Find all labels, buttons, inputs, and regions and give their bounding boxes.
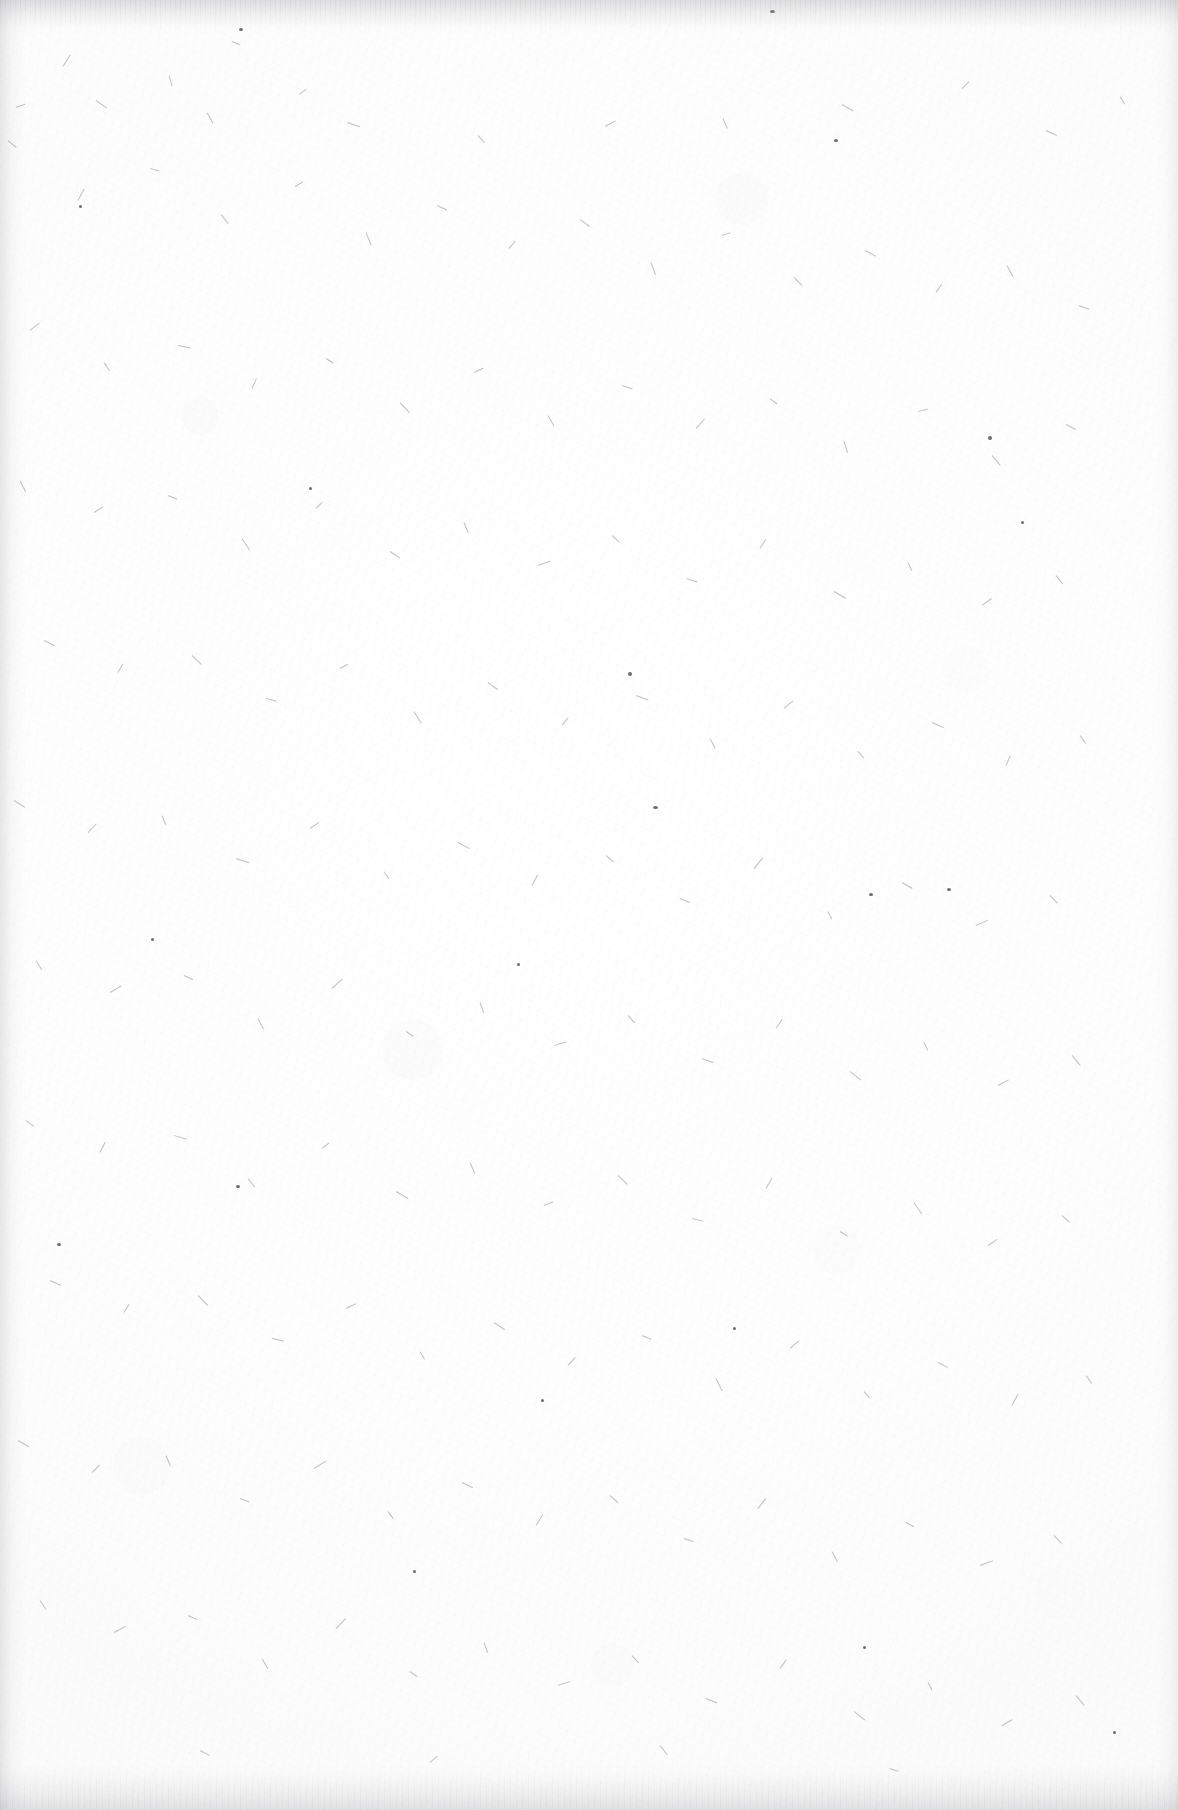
page-text-content <box>0 0 1178 1810</box>
scanned-page <box>0 0 1178 1810</box>
